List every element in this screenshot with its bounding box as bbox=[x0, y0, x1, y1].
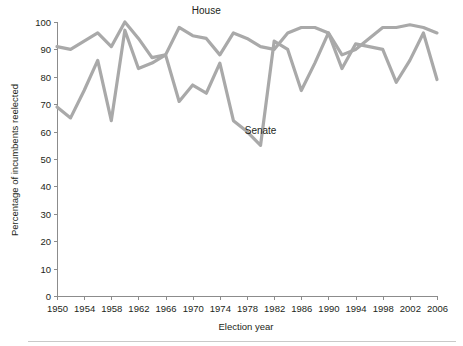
x-tick-label: 1990 bbox=[318, 303, 339, 314]
y-tick-label: 10 bbox=[40, 264, 51, 275]
x-tick-label: 1998 bbox=[373, 303, 394, 314]
x-tick-label: 2006 bbox=[427, 303, 448, 314]
y-tick-label: 70 bbox=[40, 99, 51, 110]
y-tick-label: 40 bbox=[40, 181, 51, 192]
x-tick-label: 1966 bbox=[156, 303, 177, 314]
x-tick-label: 1970 bbox=[183, 303, 204, 314]
x-tick-label: 1982 bbox=[264, 303, 285, 314]
x-tick-label: 1962 bbox=[128, 303, 149, 314]
chart-svg: 0102030405060708090100 19501954195819621… bbox=[0, 0, 463, 346]
x-tick-label: 1994 bbox=[346, 303, 367, 314]
x-tick-label: 1954 bbox=[74, 303, 95, 314]
x-tick-label: 1974 bbox=[210, 303, 231, 314]
footer-divider bbox=[28, 341, 456, 342]
y-tick-label: 90 bbox=[40, 44, 51, 55]
y-tick-label: 80 bbox=[40, 72, 51, 83]
x-axis-title: Election year bbox=[219, 321, 274, 332]
incumbent-reelection-chart: 0102030405060708090100 19501954195819621… bbox=[0, 0, 463, 346]
y-axis-title: Percentage of incumbents reelected bbox=[9, 84, 20, 236]
y-tick-label: 50 bbox=[40, 154, 51, 165]
y-axis: 0102030405060708090100 bbox=[35, 17, 57, 302]
series-label-house: House bbox=[192, 5, 221, 16]
y-tick-label: 30 bbox=[40, 209, 51, 220]
y-tick-label: 100 bbox=[35, 17, 51, 28]
y-tick-label: 60 bbox=[40, 127, 51, 138]
y-tick-label: 0 bbox=[46, 291, 51, 302]
x-tick-label: 2002 bbox=[400, 303, 421, 314]
y-tick-label: 20 bbox=[40, 236, 51, 247]
x-axis: 1950195419581962196619701974197819821986… bbox=[47, 296, 448, 314]
series-label-senate: Senate bbox=[245, 125, 277, 136]
x-tick-label: 1986 bbox=[291, 303, 312, 314]
x-tick-label: 1950 bbox=[47, 303, 68, 314]
x-tick-label: 1958 bbox=[101, 303, 122, 314]
series-line-house bbox=[57, 22, 437, 58]
x-tick-label: 1978 bbox=[237, 303, 258, 314]
